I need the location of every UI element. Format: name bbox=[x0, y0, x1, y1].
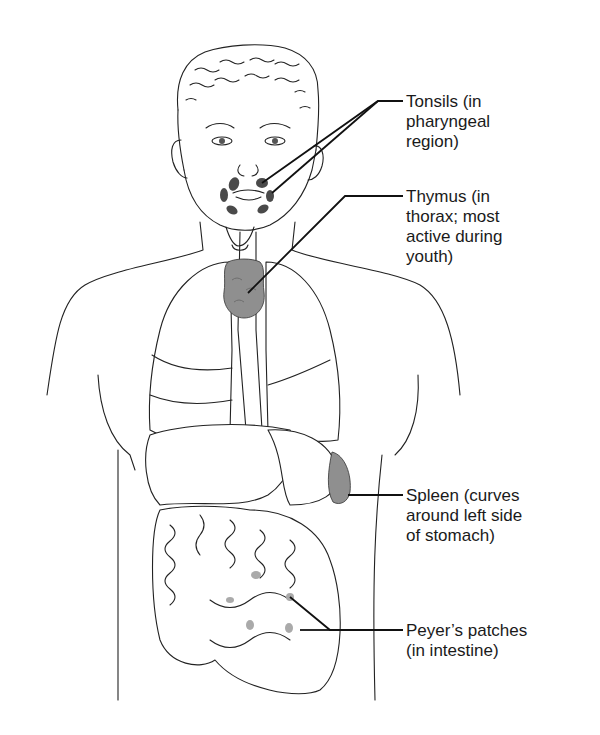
lymphoid-organs-diagram: Tonsils (in pharyngeal region) Thymus (i… bbox=[0, 0, 600, 735]
right-eye-icon bbox=[272, 138, 278, 144]
peyers-patch bbox=[226, 597, 234, 603]
tonsils-label: Tonsils (in pharyngeal region) bbox=[406, 92, 490, 152]
thymus bbox=[224, 259, 265, 318]
peyers-patch bbox=[285, 623, 293, 633]
tonsils-leader bbox=[262, 101, 403, 183]
intestines bbox=[153, 506, 341, 694]
spleen-label: Spleen (curves around left side of stoma… bbox=[406, 486, 522, 546]
tonsils bbox=[220, 176, 274, 217]
left-eye-icon bbox=[219, 138, 225, 144]
spleen bbox=[328, 452, 350, 504]
tonsils-leader-2 bbox=[272, 101, 378, 193]
peyers-patches-label: Peyer’s patches (in intestine) bbox=[406, 621, 527, 661]
peyers-patch bbox=[246, 620, 254, 630]
peyers-patch bbox=[251, 571, 261, 579]
thymus-label: Thymus (in thorax; most active during yo… bbox=[406, 187, 502, 267]
abdomen bbox=[146, 425, 338, 505]
head bbox=[172, 45, 323, 230]
